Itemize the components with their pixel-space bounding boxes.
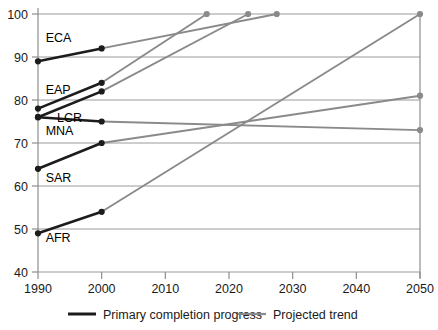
legend-label-1: Projected trend — [273, 308, 358, 322]
data-point-AFR — [99, 209, 105, 215]
projected-line-LCR — [102, 14, 248, 91]
y-tick-label-100: 100 — [7, 8, 28, 22]
data-point-EAP — [99, 80, 105, 86]
series-label-SAR: SAR — [46, 171, 72, 185]
y-tick-label-60: 60 — [14, 180, 28, 194]
progress-lines-group — [38, 48, 102, 233]
x-tick-label-2050: 2050 — [406, 282, 434, 296]
data-point-ECA — [99, 45, 105, 51]
y-tick-label-50: 50 — [14, 223, 28, 237]
data-point-SAR — [99, 140, 105, 146]
x-tick-label-2040: 2040 — [342, 282, 370, 296]
progress-line-SAR — [38, 143, 102, 169]
y-tick-label-80: 80 — [14, 94, 28, 108]
progress-line-ECA — [38, 48, 102, 61]
data-point-ECA — [35, 58, 41, 64]
x-tick-label-2000: 2000 — [88, 282, 116, 296]
projected-endpoint-LCR — [245, 11, 251, 17]
line-chart: 405060708090100 199020002010202020302040… — [0, 0, 438, 330]
chart-canvas: 405060708090100 199020002010202020302040… — [0, 0, 438, 330]
projected-endpoint-MNA — [417, 127, 423, 133]
projected-trend-lines-group — [102, 14, 420, 212]
projected-endpoint-EAP — [204, 11, 210, 17]
projected-line-EAP — [102, 14, 207, 83]
projected-line-MNA — [102, 122, 420, 131]
data-point-EAP — [35, 106, 41, 112]
x-tick-label-1990: 1990 — [24, 282, 52, 296]
projected-line-ECA — [102, 14, 277, 48]
x-tick-label-2010: 2010 — [151, 282, 179, 296]
series-labels-group: ECAEAPLCRMNASARAFR — [46, 31, 82, 245]
series-label-LCR: LCR — [57, 111, 82, 125]
data-point-LCR — [99, 88, 105, 94]
series-label-ECA: ECA — [46, 31, 72, 45]
data-point-MNA — [35, 114, 41, 120]
data-point-MNA — [99, 118, 105, 124]
x-axis-ticks-group: 1990200020102020203020402050 — [24, 272, 434, 296]
series-label-EAP: EAP — [46, 83, 71, 97]
y-tick-label-90: 90 — [14, 51, 28, 65]
y-axis-ticks-group: 405060708090100 — [7, 8, 38, 280]
data-point-AFR — [35, 230, 41, 236]
gridlines-group — [38, 14, 420, 272]
x-tick-label-2030: 2030 — [279, 282, 307, 296]
projected-endpoint-AFR — [417, 11, 423, 17]
data-point-SAR — [35, 166, 41, 172]
legend-group: Primary completion progressProjected tre… — [68, 308, 358, 322]
projected-endpoint-SAR — [417, 93, 423, 99]
projected-line-AFR — [102, 14, 420, 212]
y-tick-label-40: 40 — [14, 266, 28, 280]
series-label-AFR: AFR — [46, 231, 71, 245]
x-tick-label-2020: 2020 — [215, 282, 243, 296]
projected-line-SAR — [102, 96, 420, 143]
projected-endpoint-ECA — [274, 11, 280, 17]
y-tick-label-70: 70 — [14, 137, 28, 151]
series-label-MNA: MNA — [46, 124, 74, 138]
